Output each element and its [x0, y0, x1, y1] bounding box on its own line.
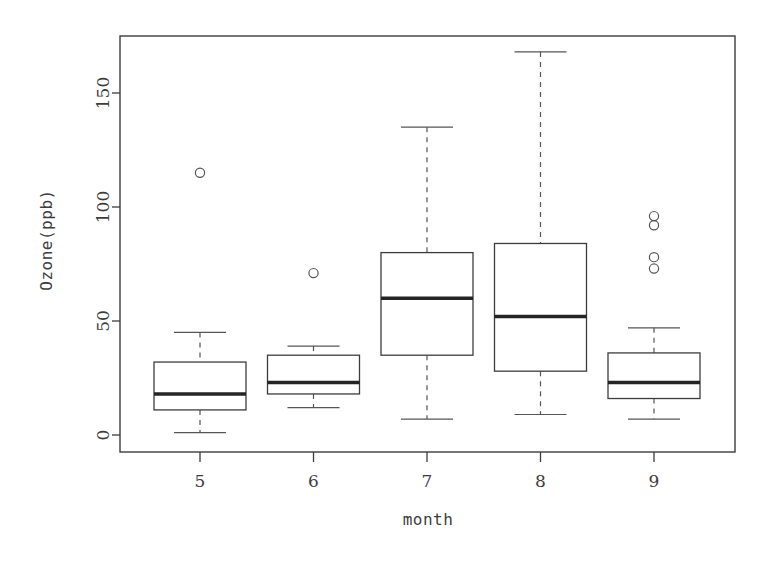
- x-tick-label: 8: [535, 471, 546, 491]
- outlier-point: [649, 253, 658, 262]
- outlier-point: [649, 221, 658, 230]
- y-axis: 050100150: [93, 77, 121, 441]
- outlier-point: [649, 264, 658, 273]
- outlier-point: [649, 212, 658, 221]
- x-tick-label: 6: [308, 471, 319, 491]
- y-axis-title: Ozone(ppb): [37, 189, 56, 290]
- box-body: [608, 353, 700, 399]
- box-group-7: [381, 127, 473, 419]
- x-tick-label: 9: [649, 471, 660, 491]
- box-series: [154, 52, 700, 433]
- y-tick-label: 0: [93, 430, 113, 441]
- box-group-8: [495, 52, 587, 415]
- x-axis: 56789: [195, 452, 660, 491]
- box-body: [154, 362, 246, 410]
- y-tick-label: 100: [93, 191, 113, 223]
- box-body: [381, 253, 473, 356]
- outlier-point: [195, 168, 204, 177]
- x-tick-label: 7: [422, 471, 433, 491]
- y-tick-label: 50: [93, 310, 113, 332]
- plot-canvas: 050100150 56789 Ozone(ppb) month: [0, 0, 764, 568]
- outlier-point: [309, 269, 318, 278]
- box-body: [268, 355, 360, 394]
- boxplot-figure: 050100150 56789 Ozone(ppb) month: [0, 0, 764, 568]
- box-group-5: [154, 168, 246, 433]
- box-body: [495, 243, 587, 371]
- y-tick-label: 150: [93, 77, 113, 109]
- box-group-9: [608, 212, 700, 420]
- x-axis-title: month: [403, 510, 454, 529]
- x-tick-label: 5: [195, 471, 206, 491]
- box-group-6: [268, 269, 360, 408]
